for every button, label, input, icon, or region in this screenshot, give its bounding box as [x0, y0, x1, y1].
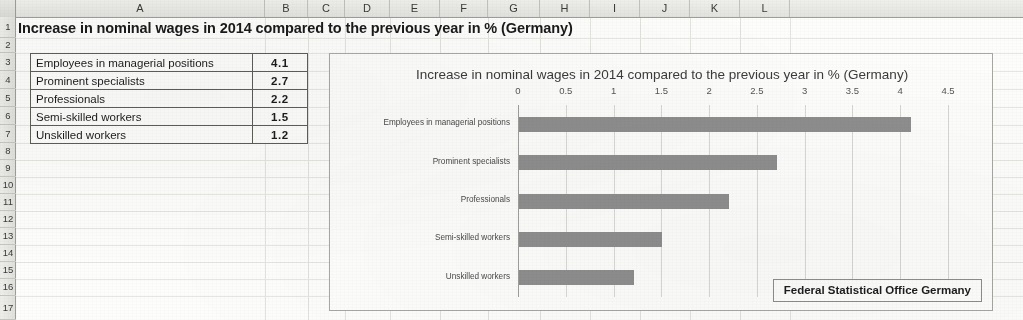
y-axis-category-label: Employees in managerial positions: [383, 118, 510, 127]
row-header-8[interactable]: 8: [0, 143, 16, 160]
column-header-K[interactable]: K: [690, 0, 740, 17]
chart-gridline: [948, 105, 949, 297]
row-header-6[interactable]: 6: [0, 107, 16, 125]
chart-gridline: [805, 105, 806, 297]
chart-bar[interactable]: [519, 117, 911, 132]
row-header-9[interactable]: 9: [0, 160, 16, 177]
row-header-7[interactable]: 7: [0, 125, 16, 143]
data-table-body: Employees in managerial positions4.1Prom…: [31, 54, 308, 144]
row-header-12[interactable]: 12: [0, 211, 16, 228]
table-row[interactable]: Semi-skilled workers1.5: [31, 108, 308, 126]
chart-gridline: [757, 105, 758, 297]
row-header-1[interactable]: 1: [0, 17, 16, 38]
select-all-corner[interactable]: [0, 0, 16, 17]
column-header-G[interactable]: G: [488, 0, 540, 17]
y-axis-category-label: Unskilled workers: [446, 272, 510, 281]
table-row[interactable]: Employees in managerial positions4.1: [31, 54, 308, 72]
x-axis-tick-label: 1: [611, 85, 616, 96]
row-header-14[interactable]: 14: [0, 245, 16, 262]
row-header-15[interactable]: 15: [0, 262, 16, 279]
table-cell-value[interactable]: 4.1: [252, 54, 307, 72]
table-cell-label[interactable]: Employees in managerial positions: [31, 54, 253, 72]
table-cell-value[interactable]: 2.2: [252, 90, 307, 108]
grid-line-horizontal: [16, 38, 1023, 39]
row-header-2[interactable]: 2: [0, 38, 16, 53]
chart-bar[interactable]: [519, 232, 662, 247]
row-header-4[interactable]: 4: [0, 71, 16, 89]
row-header-11[interactable]: 11: [0, 194, 16, 211]
row-header-5[interactable]: 5: [0, 89, 16, 107]
x-axis-tick-label: 3: [802, 85, 807, 96]
chart-plot-area: 00.511.522.533.544.5Employees in manager…: [518, 105, 948, 297]
bar-chart[interactable]: Increase in nominal wages in 2014 compar…: [329, 53, 993, 311]
table-row[interactable]: Prominent specialists2.7: [31, 72, 308, 90]
row-header-3[interactable]: 3: [0, 53, 16, 71]
x-axis-tick-label: 2: [706, 85, 711, 96]
grid-line-vertical: [308, 17, 309, 320]
table-row[interactable]: Unskilled workers1.2: [31, 126, 308, 144]
chart-title: Increase in nominal wages in 2014 compar…: [330, 67, 994, 82]
x-axis-tick-label: 0.5: [559, 85, 572, 96]
row-header-10[interactable]: 10: [0, 177, 16, 194]
column-header-H[interactable]: H: [540, 0, 590, 17]
chart-gridline: [852, 105, 853, 297]
column-header-F[interactable]: F: [440, 0, 488, 17]
chart-annotation-box: Federal Statistical Office Germany: [773, 279, 982, 302]
table-cell-value[interactable]: 1.2: [252, 126, 307, 144]
table-row[interactable]: Professionals2.2: [31, 90, 308, 108]
column-header-D[interactable]: D: [345, 0, 390, 17]
table-cell-label[interactable]: Professionals: [31, 90, 253, 108]
column-header-bar: ABCDEFGHIJKL: [0, 0, 1023, 18]
x-axis-tick-label: 4.5: [941, 85, 954, 96]
table-cell-label[interactable]: Unskilled workers: [31, 126, 253, 144]
data-table: Employees in managerial positions4.1Prom…: [30, 53, 308, 144]
column-header-C[interactable]: C: [308, 0, 345, 17]
x-axis-tick-label: 0: [515, 85, 520, 96]
chart-bar[interactable]: [519, 155, 777, 170]
x-axis-tick-label: 2.5: [750, 85, 763, 96]
y-axis-category-label: Professionals: [461, 195, 510, 204]
column-header-L[interactable]: L: [740, 0, 790, 17]
x-axis-tick-label: 1.5: [655, 85, 668, 96]
chart-gridline: [900, 105, 901, 297]
y-axis-category-label: Semi-skilled workers: [435, 233, 510, 242]
row-header-13[interactable]: 13: [0, 228, 16, 245]
chart-bar[interactable]: [519, 194, 729, 209]
table-cell-value[interactable]: 2.7: [252, 72, 307, 90]
row-header-bar: 1234567891011121314151617: [0, 17, 16, 320]
table-cell-value[interactable]: 1.5: [252, 108, 307, 126]
column-header-E[interactable]: E: [390, 0, 440, 17]
x-axis-tick-label: 3.5: [846, 85, 859, 96]
chart-bar[interactable]: [519, 270, 634, 285]
table-cell-label[interactable]: Prominent specialists: [31, 72, 253, 90]
spreadsheet-window: ABCDEFGHIJKL 1234567891011121314151617 I…: [0, 0, 1023, 320]
column-header-B[interactable]: B: [265, 0, 308, 17]
table-cell-label[interactable]: Semi-skilled workers: [31, 108, 253, 126]
column-header-A[interactable]: A: [16, 0, 265, 17]
column-header-I[interactable]: I: [590, 0, 640, 17]
page-title: Increase in nominal wages in 2014 compar…: [18, 18, 573, 38]
y-axis-category-label: Prominent specialists: [433, 157, 510, 166]
column-header-J[interactable]: J: [640, 0, 690, 17]
x-axis-tick-label: 4: [898, 85, 903, 96]
row-header-16[interactable]: 16: [0, 279, 16, 296]
row-header-17[interactable]: 17: [0, 296, 16, 320]
